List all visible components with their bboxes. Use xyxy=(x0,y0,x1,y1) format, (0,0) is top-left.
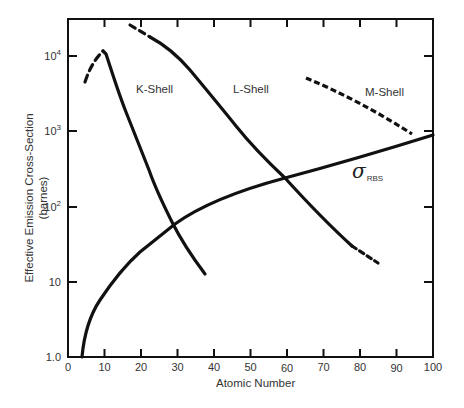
l-shell-label: L-Shell xyxy=(233,83,269,95)
y-ticks-left xyxy=(68,56,77,282)
y-axis-units: (barnes) xyxy=(37,176,49,219)
k-shell-dashed xyxy=(85,51,103,82)
x-tick-label: 10 xyxy=(98,361,110,373)
sigma-rbs-label: σRBS xyxy=(352,159,383,183)
y-tick-label-10: 10 xyxy=(49,276,61,288)
x-tick-label: 80 xyxy=(354,361,366,373)
x-tick-label: 20 xyxy=(135,361,147,373)
x-tick-label: 100 xyxy=(424,361,442,373)
x-ticks-top xyxy=(105,19,397,27)
l-shell-solid xyxy=(150,37,352,246)
y-tick-label-1000: 103 xyxy=(44,123,61,137)
k-shell-label: K-Shell xyxy=(136,83,173,95)
x-tick-label: 60 xyxy=(281,362,293,374)
y-ticks-right xyxy=(424,56,433,282)
y-tick-label-1: 1.0 xyxy=(46,351,61,363)
x-tick-label: 40 xyxy=(208,361,220,373)
x-tick-label: 90 xyxy=(390,362,402,374)
x-tick-label: 0 xyxy=(65,361,71,373)
y-axis-title: Effective Emission Cross-Section xyxy=(23,113,35,282)
cross-section-chart: 0 10 20 30 40 50 60 70 80 90 100 1.0 10 … xyxy=(0,0,464,408)
x-tick-label: 30 xyxy=(171,361,183,373)
x-tick-label: 70 xyxy=(317,361,329,373)
x-ticks-bottom xyxy=(105,349,397,357)
m-shell-label: M-Shell xyxy=(365,86,404,98)
rbs-curve xyxy=(82,135,433,357)
y-tick-label-10000: 104 xyxy=(44,48,61,62)
l-shell-dashed-end xyxy=(352,246,378,263)
x-tick-labels: 0 10 20 30 40 50 60 70 80 90 100 xyxy=(65,361,442,374)
l-shell-curve xyxy=(130,25,378,263)
x-tick-label: 50 xyxy=(244,361,256,373)
x-axis-title: Atomic Number xyxy=(216,377,295,389)
